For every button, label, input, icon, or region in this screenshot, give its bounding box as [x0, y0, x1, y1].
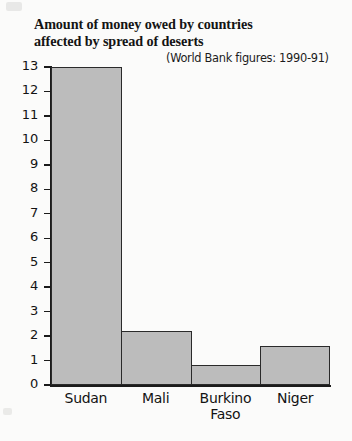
y-tick-label: 13: [8, 58, 38, 73]
x-axis-label-line: Faso: [191, 407, 261, 423]
y-tick-mark: [44, 91, 51, 92]
y-tick-mark: [44, 286, 51, 287]
y-tick-label: 0: [8, 376, 38, 391]
chart-title-line-2: affected by spread of deserts: [34, 33, 334, 50]
x-axis-line: [50, 385, 331, 387]
scan-artifact-bottom-left: [3, 408, 12, 415]
y-tick-label: 1: [8, 352, 38, 367]
bar-niger: [260, 346, 330, 385]
y-tick-label: 5: [8, 254, 38, 269]
x-axis-label-burkino-faso: BurkinoFaso: [191, 391, 261, 422]
scan-artifact-top-left: [6, 2, 22, 11]
y-tick-mark: [44, 238, 51, 239]
y-tick-label: 9: [8, 156, 38, 171]
y-tick-mark: [44, 66, 51, 67]
y-tick-label: 8: [8, 180, 38, 195]
x-axis-label-niger: Niger: [260, 391, 330, 407]
chart-title-line-1: Amount of money owed by countries: [34, 16, 253, 32]
y-tick-label: 12: [8, 82, 38, 97]
y-tick-mark: [44, 189, 51, 190]
y-tick-mark: [44, 311, 51, 312]
x-axis-label-sudan: Sudan: [51, 391, 121, 407]
chart-subtitle: (World Bank figures: 1990-91): [166, 51, 329, 65]
y-tick-label: 4: [8, 278, 38, 293]
y-tick-mark: [44, 115, 51, 116]
bar-mali: [121, 331, 192, 385]
chart-title: Amount of money owed by countries affect…: [34, 16, 334, 50]
y-tick-label: 6: [8, 229, 38, 244]
y-tick-mark: [44, 213, 51, 214]
y-tick-label: 10: [8, 131, 38, 146]
x-axis-label-line: Mali: [121, 391, 191, 407]
y-tick-mark: [44, 140, 51, 141]
bar-burkino-faso: [191, 365, 262, 385]
x-axis-label-mali: Mali: [121, 391, 191, 407]
y-tick-mark: [44, 164, 51, 165]
x-axis-label-line: Niger: [260, 391, 330, 407]
y-tick-label: 3: [8, 303, 38, 318]
bar-sudan: [51, 67, 122, 385]
y-tick-label: 11: [8, 107, 38, 122]
chart-figure: Amount of money owed by countries affect…: [0, 0, 352, 441]
y-tick-label: 7: [8, 205, 38, 220]
y-tick-mark: [44, 262, 51, 263]
y-tick-mark: [44, 360, 51, 361]
x-axis-label-line: Sudan: [51, 391, 121, 407]
plot-area: Billion Dollars (US): [51, 67, 330, 385]
y-tick-mark: [44, 384, 51, 385]
y-tick-mark: [44, 335, 51, 336]
y-tick-label: 2: [8, 327, 38, 342]
x-axis-label-line: Burkino: [191, 391, 261, 407]
